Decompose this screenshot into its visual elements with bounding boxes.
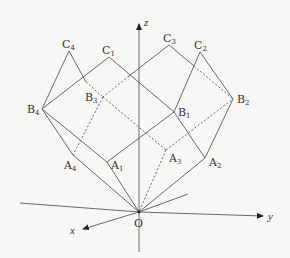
origin-label: O bbox=[134, 217, 143, 230]
solid-edges bbox=[42, 45, 233, 212]
dashed-edges bbox=[73, 66, 233, 212]
point-label-a3: A3 bbox=[168, 152, 181, 166]
point-label-c3: C3 bbox=[163, 32, 176, 46]
x-axis-label: x bbox=[69, 224, 75, 236]
point-label-b2: B2 bbox=[237, 93, 250, 107]
point-label-c4: C4 bbox=[62, 38, 75, 52]
horizontal-guide-line bbox=[20, 203, 139, 212]
point-label-a2: A2 bbox=[208, 156, 221, 170]
short-guide-line bbox=[139, 194, 188, 212]
point-label-a1: A1 bbox=[110, 159, 123, 173]
diagram-canvas: z y x O C4 C1 C3 C2 B4 B3 B1 B2 A4 A1 A3… bbox=[0, 0, 290, 258]
z-axis-label: z bbox=[143, 16, 149, 28]
geometry-diagram: z y x O C4 C1 C3 C2 B4 B3 B1 B2 A4 A1 A3… bbox=[0, 0, 290, 258]
point-label-c2: C2 bbox=[194, 39, 207, 53]
point-label-b1: B1 bbox=[178, 106, 191, 120]
y-axis bbox=[139, 212, 263, 216]
point-label-c1: C1 bbox=[102, 44, 115, 58]
origin-dot bbox=[138, 211, 141, 214]
point-label-b4: B4 bbox=[27, 103, 40, 117]
y-axis-label: y bbox=[267, 210, 273, 222]
point-label-b3: B3 bbox=[85, 91, 98, 105]
x-axis bbox=[83, 212, 139, 229]
point-label-a4: A4 bbox=[63, 159, 77, 173]
